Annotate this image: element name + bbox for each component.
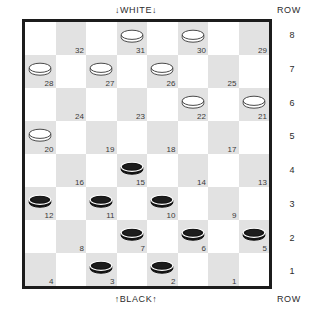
board-square-13[interactable]: 13 — [239, 154, 270, 187]
board-square-light[interactable] — [86, 220, 117, 253]
white-checker-piece[interactable] — [89, 61, 113, 76]
board-square-18[interactable]: 18 — [147, 121, 178, 154]
board-square-5[interactable]: 5 — [239, 220, 270, 253]
board-square-27[interactable]: 27 — [86, 55, 117, 88]
board-square-30[interactable]: 30 — [178, 22, 209, 55]
board-square-light[interactable] — [25, 22, 56, 55]
black-checker-piece[interactable] — [120, 160, 144, 175]
board-square-17[interactable]: 17 — [208, 121, 239, 154]
square-number-label: 24 — [75, 112, 84, 121]
board-square-light[interactable] — [56, 121, 87, 154]
black-checker-piece[interactable] — [120, 226, 144, 241]
square-number-label: 12 — [45, 211, 54, 220]
board-square-light[interactable] — [86, 22, 117, 55]
board-square-light[interactable] — [86, 154, 117, 187]
board-square-28[interactable]: 28 — [25, 55, 56, 88]
black-checker-piece[interactable] — [181, 226, 205, 241]
board-square-2[interactable]: 2 — [147, 253, 178, 286]
black-checker-piece[interactable] — [150, 259, 174, 274]
board-square-light[interactable] — [239, 253, 270, 286]
board-square-light[interactable] — [147, 88, 178, 121]
board-square-light[interactable] — [147, 220, 178, 253]
board-square-11[interactable]: 11 — [86, 187, 117, 220]
board-square-16[interactable]: 16 — [56, 154, 87, 187]
board-square-23[interactable]: 23 — [117, 88, 148, 121]
white-checker-piece[interactable] — [28, 61, 52, 76]
board-square-light[interactable] — [208, 22, 239, 55]
board-square-light[interactable] — [25, 220, 56, 253]
board-square-25[interactable]: 25 — [208, 55, 239, 88]
black-checker-piece[interactable] — [150, 193, 174, 208]
board-square-24[interactable]: 24 — [56, 88, 87, 121]
board-square-light[interactable] — [208, 88, 239, 121]
board-square-10[interactable]: 10 — [147, 187, 178, 220]
board-square-light[interactable] — [239, 55, 270, 88]
row-number-label: 5 — [285, 120, 299, 154]
white-checker-piece[interactable] — [28, 127, 52, 142]
square-number-label: 7 — [141, 244, 145, 253]
square-number-label: 30 — [197, 46, 206, 55]
board-square-light[interactable] — [117, 121, 148, 154]
board-square-15[interactable]: 15 — [117, 154, 148, 187]
board-square-light[interactable] — [117, 187, 148, 220]
board-square-light[interactable] — [178, 187, 209, 220]
board-square-9[interactable]: 9 — [208, 187, 239, 220]
square-number-label: 27 — [106, 79, 115, 88]
board-square-21[interactable]: 21 — [239, 88, 270, 121]
board-square-19[interactable]: 19 — [86, 121, 117, 154]
board-square-light[interactable] — [56, 187, 87, 220]
board-square-31[interactable]: 31 — [117, 22, 148, 55]
board-square-light[interactable] — [239, 121, 270, 154]
board-square-light[interactable] — [25, 88, 56, 121]
board-square-light[interactable] — [147, 22, 178, 55]
board-square-light[interactable] — [117, 55, 148, 88]
white-checker-piece[interactable] — [120, 28, 144, 43]
board-square-7[interactable]: 7 — [117, 220, 148, 253]
board-square-light[interactable] — [117, 253, 148, 286]
board-square-light[interactable] — [178, 253, 209, 286]
board-square-8[interactable]: 8 — [56, 220, 87, 253]
board-square-26[interactable]: 26 — [147, 55, 178, 88]
board-square-light[interactable] — [208, 154, 239, 187]
board-square-light[interactable] — [86, 88, 117, 121]
row-number-label: 6 — [285, 87, 299, 121]
board-square-20[interactable]: 20 — [25, 121, 56, 154]
white-checker-piece[interactable] — [181, 94, 205, 109]
square-number-label: 31 — [136, 46, 145, 55]
square-number-label: 21 — [258, 112, 267, 121]
board-square-32[interactable]: 32 — [56, 22, 87, 55]
square-number-label: 5 — [263, 244, 267, 253]
board-square-light[interactable] — [56, 253, 87, 286]
board-square-light[interactable] — [208, 220, 239, 253]
row-number-label: 8 — [285, 19, 299, 53]
board-square-12[interactable]: 12 — [25, 187, 56, 220]
white-side-label: ↓WHITE↓ — [0, 5, 272, 15]
square-number-label: 10 — [167, 211, 176, 220]
board-square-14[interactable]: 14 — [178, 154, 209, 187]
board-square-light[interactable] — [178, 55, 209, 88]
black-checker-piece[interactable] — [89, 259, 113, 274]
board-square-4[interactable]: 4 — [25, 253, 56, 286]
board-square-light[interactable] — [178, 121, 209, 154]
board-square-3[interactable]: 3 — [86, 253, 117, 286]
square-number-label: 11 — [106, 211, 114, 220]
board-square-6[interactable]: 6 — [178, 220, 209, 253]
black-checker-piece[interactable] — [28, 193, 52, 208]
square-number-label: 6 — [202, 244, 206, 253]
board-square-light[interactable] — [25, 154, 56, 187]
black-checker-piece[interactable] — [242, 226, 266, 241]
white-checker-piece[interactable] — [242, 94, 266, 109]
board-square-light[interactable] — [239, 187, 270, 220]
square-number-label: 25 — [228, 79, 237, 88]
black-checker-piece[interactable] — [89, 193, 113, 208]
board-square-light[interactable] — [147, 154, 178, 187]
checkers-board[interactable]: 3231302928272625242322212019181716151413… — [22, 19, 272, 289]
white-checker-piece[interactable] — [150, 61, 174, 76]
board-square-22[interactable]: 22 — [178, 88, 209, 121]
board-square-29[interactable]: 29 — [239, 22, 270, 55]
board-square-1[interactable]: 1 — [208, 253, 239, 286]
board-square-light[interactable] — [56, 55, 87, 88]
white-checker-piece[interactable] — [181, 28, 205, 43]
square-number-label: 17 — [228, 145, 237, 154]
row-number-label: 3 — [285, 188, 299, 222]
